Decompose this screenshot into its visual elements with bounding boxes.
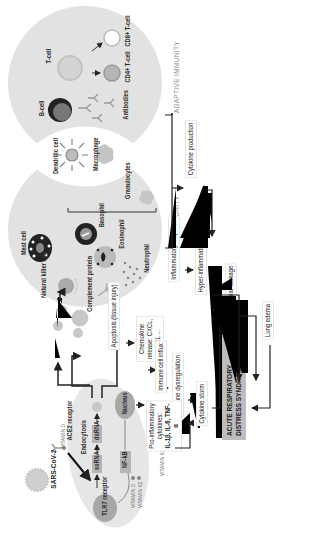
immune-influx-box: Immune cell influx [155, 341, 167, 394]
cytokine-storm-box: Cytokine storm [196, 381, 208, 426]
hyper-inflammation-box: Hyper-inflammation [195, 238, 207, 295]
vitamin-dot [131, 476, 135, 480]
eosinophil-label: Eosinophil [118, 219, 126, 248]
t-cell-icon [58, 56, 82, 80]
vitamin-k2-bottom-label: VITAMIN K2 [137, 482, 143, 508]
cd8-t-cell-icon [104, 30, 120, 46]
b-cell-icon [48, 98, 72, 122]
arrow-to-particles [58, 363, 90, 385]
ards-box: ACUTE RESPIRATORY DISTRESS SYNDROME (ARD… [222, 334, 246, 440]
vitamin-k2-side-label: VITAMIN K2 [159, 450, 165, 476]
ace2-receptor-label: ACE2 receptor [66, 401, 74, 441]
virion-icon [92, 402, 102, 412]
dendritic-cell-label: Dendritic cell [52, 138, 60, 174]
pro-inflammatory-line2: cytokines: [156, 403, 164, 449]
endocytosis-label: Endocytosis [80, 420, 88, 454]
mast-cell-label: Mast cell [20, 231, 28, 255]
ssrna-label: ssRNA [93, 451, 101, 470]
diagram-canvas: ADAPTIVE IMMUNITY INNATE IMMUNITY T-cell… [0, 0, 309, 548]
pro-inflammatory-line1: Pro-inflammatory [148, 403, 156, 449]
nk-cell-label: Natural killer cell [40, 252, 48, 298]
cd4-t-cell-icon [104, 65, 120, 81]
ards-line2: DISTRESS SYNDROME (ARDS) [234, 339, 243, 436]
vitamin-d-top-label: VITAMIN D [60, 424, 66, 448]
granulocytes-label: Granulocytes [124, 162, 132, 199]
nucleus-label: Nucleus [121, 392, 129, 414]
nfkb-label: NF-kB [121, 451, 129, 468]
eosinophil-icon [94, 246, 116, 268]
lung-edema-box: Lung edema [262, 301, 274, 339]
vitamin-dot [137, 476, 141, 480]
cd8-label: CD8+ T-cell [124, 15, 132, 46]
b-cell-label: B-cell [38, 101, 46, 117]
sars-cov-2-label: SARS-CoV-2 [50, 450, 58, 489]
macrophage-label: Macrophage [92, 137, 100, 171]
dendritic-cell-icon [56, 139, 88, 171]
cytokine-production-box: Cytokine production [185, 120, 197, 178]
t-cell-label: T-cell [45, 49, 53, 64]
apoptosis-box: Apoptosis (tissue injury) [108, 282, 120, 350]
vascular-leakage-box: Vascular leakage [225, 263, 237, 313]
adaptive-immunity-label: ADAPTIVE IMMUNITY [172, 41, 181, 113]
antibodies-label: Antibodies [122, 90, 130, 120]
complement-protein-label: Complement protein [86, 256, 94, 312]
ards-line1: ACUTE RESPIRATORY [225, 339, 234, 436]
vitamin-d-bottom-label: VITAMIN D [130, 484, 136, 508]
cd4-label: CD4+ T-cell [124, 51, 132, 82]
pro-inflammatory-line3: IL-1β, IL-6, TNF-α [164, 403, 180, 449]
dsrna-label: dsRNA [93, 421, 101, 440]
basophil-icon [75, 223, 97, 245]
neutrophil-label: Neutrophil [143, 244, 151, 273]
inflammatory-response-box: Inflammatory response [168, 217, 180, 283]
pro-inflammatory-box: Pro-inflammatory cytokines: IL-1β, IL-6,… [146, 401, 182, 452]
tlr7-label: TLR7 receptor [101, 477, 109, 516]
sars-cov-2-virus-icon [26, 469, 48, 491]
basophil-label: Basophil [98, 203, 106, 227]
